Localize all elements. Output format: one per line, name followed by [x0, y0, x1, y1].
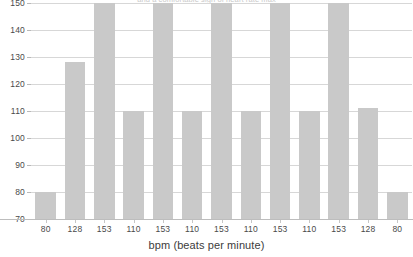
bar — [328, 3, 349, 219]
y-axis-tick-mark — [27, 3, 31, 4]
plot-area — [31, 3, 412, 219]
x-axis-tick-mark — [397, 220, 398, 223]
x-axis-title: bpm (beats per minute) — [0, 239, 413, 251]
x-axis-tick-label: 110 — [295, 224, 324, 234]
bar — [241, 111, 262, 219]
y-axis-tick-label: 90 — [0, 161, 25, 169]
bar — [358, 108, 379, 219]
bar — [270, 3, 291, 219]
x-axis-tick-label: 110 — [119, 224, 148, 234]
y-axis-tick-mark — [27, 192, 31, 193]
y-axis-tick-mark — [27, 84, 31, 85]
x-axis-tick-mark — [368, 220, 369, 223]
x-axis-tick-label: 153 — [207, 224, 236, 234]
bar — [153, 3, 174, 219]
x-axis-tick-mark — [163, 220, 164, 223]
y-axis-tick-label: 130 — [0, 53, 25, 61]
y-axis-tick-mark — [27, 138, 31, 139]
bar-series — [31, 3, 412, 219]
y-axis-tick-label: 120 — [0, 80, 25, 88]
bar — [211, 3, 232, 219]
x-axis-tick-mark — [222, 220, 223, 223]
x-axis-tick-mark — [134, 220, 135, 223]
x-axis-tick-mark — [192, 220, 193, 223]
bar — [182, 111, 203, 219]
y-axis-tick-label: 100 — [0, 134, 25, 142]
x-axis-tick-label: 153 — [90, 224, 119, 234]
bar — [94, 3, 115, 219]
x-axis-tick-label: 153 — [324, 224, 353, 234]
y-axis-tick-mark — [27, 165, 31, 166]
bar — [387, 192, 408, 219]
x-axis-tick-label: 153 — [265, 224, 294, 234]
x-axis-tick-mark — [251, 220, 252, 223]
x-axis-tick-label: 128 — [60, 224, 89, 234]
x-axis-tick-label: 80 — [383, 224, 412, 234]
x-axis-tick-mark — [309, 220, 310, 223]
x-axis-tick-label: 110 — [178, 224, 207, 234]
y-axis-tick-label: 150 — [0, 0, 25, 7]
y-axis-tick-mark — [27, 30, 31, 31]
x-axis-tick-mark — [75, 220, 76, 223]
bar — [299, 111, 320, 219]
y-axis-tick-label: 110 — [0, 107, 25, 115]
x-axis-line — [0, 219, 413, 220]
x-axis-tick-mark — [339, 220, 340, 223]
x-axis-tick-label: 153 — [148, 224, 177, 234]
bar — [35, 192, 56, 219]
x-axis-tick-mark — [280, 220, 281, 223]
bar — [123, 111, 144, 219]
x-axis-tick-mark — [104, 220, 105, 223]
x-axis-tick-label: 110 — [236, 224, 265, 234]
y-axis-tick-mark — [27, 111, 31, 112]
y-axis-tick-mark — [27, 57, 31, 58]
x-axis-tick-label: 128 — [353, 224, 382, 234]
bar-chart: and a comfortable sign of heart rate max… — [0, 0, 413, 257]
bar — [65, 62, 86, 219]
y-axis-tick-label: 80 — [0, 188, 25, 196]
y-axis-tick-label: 140 — [0, 26, 25, 34]
x-axis-tick-label: 80 — [31, 224, 60, 234]
x-axis-tick-mark — [46, 220, 47, 223]
